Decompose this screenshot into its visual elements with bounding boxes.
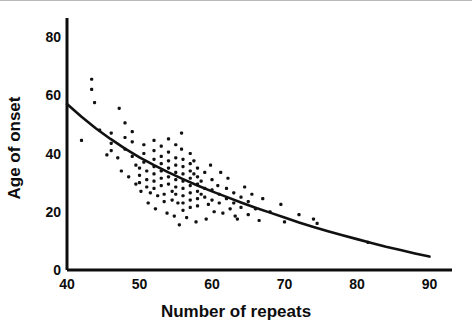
data-point — [167, 159, 170, 162]
fitted-curve-line — [67, 104, 430, 257]
data-point — [145, 178, 148, 181]
data-point — [181, 158, 184, 161]
data-point — [213, 210, 216, 213]
data-point — [185, 216, 188, 219]
data-point — [203, 171, 206, 174]
data-point — [120, 169, 123, 172]
data-point — [152, 187, 155, 190]
data-point — [142, 143, 145, 146]
data-point — [174, 185, 177, 188]
data-point — [174, 156, 177, 159]
x-tick-label-90: 90 — [422, 277, 438, 291]
data-point — [234, 215, 237, 218]
data-point — [160, 177, 163, 180]
data-point — [247, 213, 250, 216]
data-point — [134, 182, 137, 185]
data-point — [180, 132, 183, 135]
data-point — [192, 159, 195, 162]
data-point — [167, 166, 170, 169]
data-point — [90, 78, 93, 81]
x-tick-label-70: 70 — [277, 277, 293, 291]
data-point — [189, 162, 192, 165]
data-point — [181, 194, 184, 197]
data-point — [181, 187, 184, 190]
data-point — [203, 196, 206, 199]
data-point — [147, 201, 150, 204]
data-point — [167, 182, 170, 185]
x-tick-label-60: 60 — [204, 277, 220, 291]
data-point — [152, 149, 155, 152]
data-point — [160, 145, 163, 148]
data-point — [80, 139, 83, 142]
data-point — [239, 196, 242, 199]
data-point — [219, 171, 222, 174]
data-point — [229, 207, 232, 210]
data-point — [131, 130, 134, 133]
data-point — [221, 212, 224, 215]
data-point — [189, 152, 192, 155]
data-point — [131, 140, 134, 143]
y-tick-label-20: 20 — [33, 205, 61, 219]
data-point — [154, 207, 157, 210]
data-point — [167, 175, 170, 178]
data-point — [163, 200, 166, 203]
data-point — [210, 178, 213, 181]
data-point — [174, 178, 177, 181]
data-point — [189, 199, 192, 202]
data-point — [205, 217, 208, 220]
data-point — [156, 194, 159, 197]
data-point — [152, 180, 155, 183]
data-point — [250, 193, 253, 196]
data-point — [218, 201, 221, 204]
x-tick-label-40: 40 — [59, 277, 75, 291]
data-point — [110, 132, 113, 135]
data-point — [116, 156, 119, 159]
data-point — [279, 203, 282, 206]
data-point — [174, 164, 177, 167]
data-point — [145, 169, 148, 172]
data-point — [178, 223, 181, 226]
data-point — [189, 169, 192, 172]
data-point — [261, 197, 264, 200]
data-point — [194, 220, 197, 223]
data-point — [297, 213, 300, 216]
data-point — [173, 215, 176, 218]
data-point — [225, 187, 228, 190]
data-point — [226, 177, 229, 180]
data-point — [167, 150, 170, 153]
data-point — [181, 172, 184, 175]
data-point — [118, 107, 121, 110]
data-point — [174, 143, 177, 146]
data-point — [145, 185, 148, 188]
data-point — [171, 190, 174, 193]
data-point — [160, 184, 163, 187]
data-point — [105, 153, 108, 156]
data-point — [232, 201, 235, 204]
chart-figure: 405060708090 020406080 Number of repeats… — [0, 0, 472, 336]
data-point — [200, 180, 203, 183]
data-point — [152, 139, 155, 142]
data-point — [134, 164, 137, 167]
data-point — [196, 190, 199, 193]
data-point — [189, 206, 192, 209]
data-point — [152, 172, 155, 175]
x-tick-label-50: 50 — [132, 277, 148, 291]
axis-lines — [67, 18, 452, 270]
data-point — [142, 152, 145, 155]
y-tick-label-0: 0 — [33, 263, 61, 277]
data-point — [93, 101, 96, 104]
data-point — [283, 220, 286, 223]
data-point — [90, 88, 93, 91]
data-point — [160, 162, 163, 165]
data-point — [167, 137, 170, 140]
data-point — [232, 191, 235, 194]
data-point — [139, 190, 142, 193]
data-point — [149, 191, 152, 194]
data-point — [196, 204, 199, 207]
data-point — [176, 201, 179, 204]
data-point — [239, 206, 242, 209]
data-point — [163, 193, 166, 196]
data-points-group — [80, 78, 370, 244]
data-point — [181, 209, 184, 212]
data-point — [174, 171, 177, 174]
